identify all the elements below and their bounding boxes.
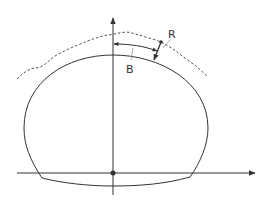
dimension-B-arrow [114,44,157,51]
dimension-R-start-dot [159,40,163,44]
dimension-R-leader [163,40,170,48]
dimension-R-arrow [154,42,161,60]
tunnel-profile [24,55,208,186]
origin-point [111,171,116,176]
label-B: B [126,63,134,76]
diagram-canvas: B R [0,0,268,207]
tunnel-diagram: B R [0,0,268,207]
label-R: R [168,28,176,41]
dimension-B-leader [131,48,133,60]
ground-surface-dashed-line [17,32,207,79]
